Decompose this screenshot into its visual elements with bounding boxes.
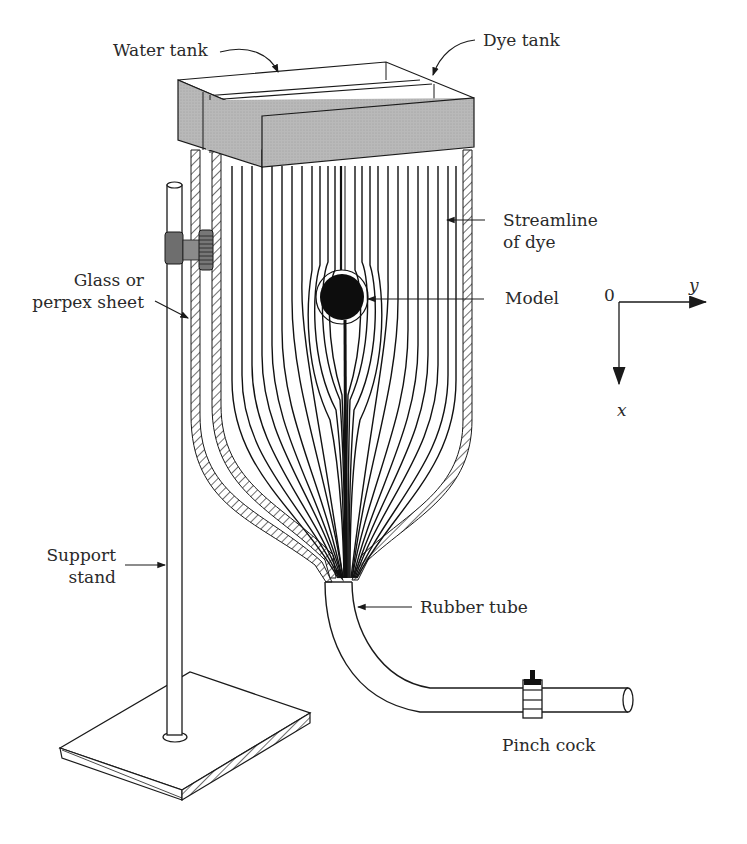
axis-origin-label: 0 <box>604 285 615 305</box>
dye-streamlines <box>232 166 456 578</box>
label-streamline-1: Streamline <box>503 210 598 230</box>
water-and-dye-tank <box>178 62 474 167</box>
model-cylinder <box>316 270 368 324</box>
label-rubber-tube: Rubber tube <box>420 597 528 617</box>
label-model: Model <box>505 288 559 308</box>
support-stand-base <box>60 672 310 800</box>
support-stand-rod <box>167 182 182 735</box>
label-support-1: Support <box>30 545 116 565</box>
label-glass-1: Glass or <box>30 270 144 290</box>
coordinate-axes <box>619 302 706 384</box>
hele-shaw-apparatus-diagram <box>0 0 747 844</box>
pinch-cock <box>523 670 542 718</box>
axis-x-label: x <box>617 400 627 420</box>
label-glass-2: perpex sheet <box>20 292 144 312</box>
label-streamline-2: of dye <box>503 232 555 252</box>
rubber-tube <box>325 570 633 712</box>
label-water-tank: Water tank <box>113 40 208 60</box>
label-support-2: stand <box>30 567 116 587</box>
axis-y-label: y <box>689 275 699 295</box>
label-dye-tank: Dye tank <box>483 30 560 50</box>
label-pinch-cock: Pinch cock <box>502 735 595 755</box>
stand-clamp <box>165 230 213 270</box>
